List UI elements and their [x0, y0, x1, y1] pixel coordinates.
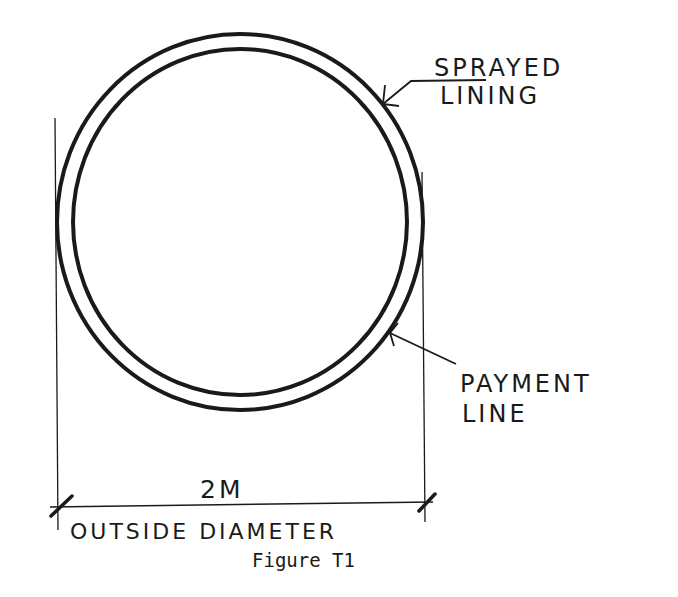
dimension-value: 2M — [200, 475, 243, 504]
sprayed-lining-label-line1: SPRAYED — [434, 54, 563, 82]
payment-line-label-line1: PAYMENT — [460, 370, 592, 398]
sprayed-lining-label-line2: LINING — [440, 82, 540, 110]
left-extension-line — [55, 118, 58, 530]
payment-line-label-line2: LINE — [462, 400, 528, 428]
pipe-cross-section-diagram: SPRAYED LINING PAYMENT LINE 2M OUTSIDE D… — [0, 0, 678, 597]
dimension-label: OUTSIDE DIAMETER — [70, 519, 337, 544]
outer-circle — [57, 34, 423, 410]
inner-circle — [73, 49, 407, 395]
left-dimension-tick — [51, 496, 72, 516]
figure-caption: Figure T1 — [252, 549, 355, 571]
